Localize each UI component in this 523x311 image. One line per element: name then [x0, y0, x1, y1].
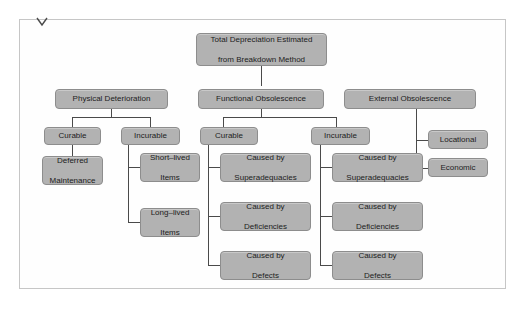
node-label: Caused by Superadequacies — [342, 153, 412, 183]
connector-fi-spine — [320, 145, 321, 265]
connector-curable-deferred — [72, 145, 73, 156]
node-label: Physical Deterioration — [71, 94, 153, 104]
node-label: Caused by Deficiencies — [240, 202, 291, 232]
node-long-lived-items[interactable]: Long–lived Items — [140, 208, 200, 237]
connector-incurable-spine — [128, 145, 129, 222]
scan-bleed-top-text — [4, 0, 124, 14]
node-fi-deficiencies[interactable]: Caused by Deficiencies — [332, 202, 423, 231]
connector-fi-defic-stub — [320, 216, 332, 217]
connector-physical-stem — [111, 109, 112, 117]
connector-incurable-long-stub — [128, 222, 140, 223]
node-functional-obsolescence[interactable]: Functional Obsolescence — [198, 89, 324, 109]
node-fc-deficiencies[interactable]: Caused by Deficiencies — [220, 202, 311, 231]
node-physical-curable[interactable]: Curable — [44, 127, 101, 145]
node-deferred-maintenance[interactable]: Deferred Maintenance — [42, 156, 103, 185]
node-external-obsolescence[interactable]: External Obsolescence — [344, 89, 476, 109]
node-label: Caused by Deficiencies — [352, 202, 403, 232]
node-fc-superadequacies[interactable]: Caused by Superadequacies — [220, 153, 311, 182]
node-label: Incurable — [322, 131, 359, 141]
node-external-economic[interactable]: Economic — [428, 158, 488, 177]
node-label: Incurable — [132, 131, 169, 141]
node-short-lived-items[interactable]: Short–lived Items — [140, 153, 200, 182]
node-physical-incurable[interactable]: Incurable — [121, 127, 180, 145]
connector-root-stem — [261, 66, 262, 86]
connector-physical-curable-drop — [72, 117, 73, 127]
node-fc-defects[interactable]: Caused by Defects — [220, 251, 311, 280]
node-label: Functional Obsolescence — [214, 94, 308, 104]
node-fi-superadequacies[interactable]: Caused by Superadequacies — [332, 153, 423, 182]
node-external-locational[interactable]: Locational — [428, 130, 488, 149]
node-label: Caused by Superadequacies — [230, 153, 300, 183]
node-label: Total Depreciation Estimated from Breakd… — [207, 35, 317, 65]
connector-functional-curable-drop — [223, 117, 224, 127]
connector-fi-defects-stub — [320, 265, 332, 266]
scan-bleed-bottom-text — [60, 296, 490, 310]
node-label: Economic — [438, 163, 477, 173]
connector-external-locational-stub — [416, 140, 428, 141]
node-physical-deterioration[interactable]: Physical Deterioration — [55, 89, 168, 109]
connector-fi-super-stub — [320, 167, 332, 168]
node-label: Deferred Maintenance — [46, 156, 100, 186]
connector-physical-incurable-drop — [150, 117, 151, 127]
node-functional-incurable[interactable]: Incurable — [311, 127, 370, 145]
connector-functional-stem — [261, 109, 262, 117]
connector-fc-spine — [208, 145, 209, 265]
node-label: Long–lived Items — [147, 208, 194, 238]
node-label: External Obsolescence — [367, 94, 453, 104]
node-label: Caused by Defects — [354, 251, 400, 281]
connector-fc-defic-stub — [208, 216, 220, 217]
connector-fc-defects-stub — [208, 265, 220, 266]
node-fi-defects[interactable]: Caused by Defects — [332, 251, 423, 280]
connector-functional-bus — [223, 117, 336, 118]
connector-fc-super-stub — [208, 167, 220, 168]
connector-incurable-short-stub — [128, 167, 140, 168]
connector-physical-bus — [72, 117, 150, 118]
node-label: Curable — [213, 131, 245, 141]
node-functional-curable[interactable]: Curable — [200, 127, 258, 145]
node-label: Short–lived Items — [146, 153, 194, 183]
connector-functional-incurable-drop — [336, 117, 337, 127]
node-label: Locational — [438, 135, 478, 145]
node-label: Curable — [56, 131, 88, 141]
node-total-depreciation[interactable]: Total Depreciation Estimated from Breakd… — [196, 33, 327, 66]
node-label: Caused by Defects — [242, 251, 288, 281]
